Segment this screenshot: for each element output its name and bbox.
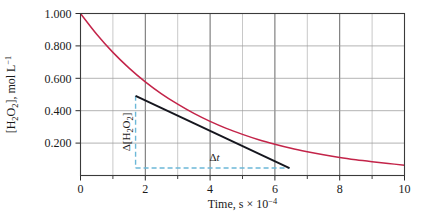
y-tick-label: 0.600	[45, 72, 72, 86]
x-tick-label: 2	[142, 182, 148, 196]
x-tick-label: 0	[78, 182, 84, 196]
hydrogen-peroxide-decay-chart: 0246810 0.2000.4000.6000.8001.000 Time, …	[0, 0, 425, 222]
x-tick-label: 6	[272, 182, 278, 196]
chart-container: 0246810 0.2000.4000.6000.8001.000 Time, …	[0, 0, 425, 222]
x-tick-label: 10	[399, 182, 411, 196]
y-tick-label: 0.200	[45, 136, 72, 150]
y-axis-title: [H2O2], mol L−1	[4, 56, 20, 134]
y-tick-label: 0.800	[45, 39, 72, 53]
delta-time-label: Δt	[209, 151, 220, 163]
x-tick-label: 4	[207, 182, 213, 196]
x-tick-label: 8	[337, 182, 343, 196]
y-tick-label: 1.000	[45, 7, 72, 21]
y-tick-label: 0.400	[45, 104, 72, 118]
x-axis-title: Time, s × 10−4	[208, 197, 278, 211]
